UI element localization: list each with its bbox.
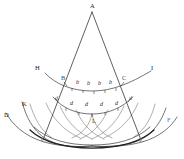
d-arc-ticks — [66, 108, 118, 117]
label-C-vertex: C — [41, 137, 46, 144]
mark-b-3: b — [98, 80, 101, 86]
mark-d-4: d — [115, 100, 118, 106]
label-H: H — [35, 65, 40, 72]
figure-root: A H B C I K D L C E F b b b b d d d d d … — [0, 0, 184, 159]
mark-d-1: d — [70, 100, 73, 106]
diagram-canvas — [0, 0, 184, 159]
label-I: I — [151, 65, 153, 72]
label-B: B — [61, 75, 66, 82]
faint-arc-4 — [104, 103, 138, 138]
label-D: D — [4, 112, 9, 119]
label-L: L — [92, 118, 96, 125]
label-F: F — [167, 117, 171, 124]
mark-b-1: b — [76, 79, 79, 85]
mark-d-3: d — [100, 101, 103, 107]
mark-d-edge-left: d — [55, 95, 58, 101]
mark-b-2: b — [87, 80, 90, 86]
middle-arc-d — [53, 97, 133, 114]
mark-b-4: b — [109, 79, 112, 85]
mark-d-edge-right: d — [129, 95, 132, 101]
label-E-vertex: E — [139, 137, 143, 144]
faint-arc-2 — [60, 106, 92, 139]
triangle-left-side — [43, 12, 92, 140]
faint-arc-1 — [46, 103, 80, 138]
triangle-right-side — [92, 12, 141, 140]
faint-arc-7 — [72, 114, 92, 138]
mark-d-2: d — [85, 101, 88, 107]
label-K: K — [22, 101, 27, 108]
label-C-upper: C — [122, 75, 127, 82]
curve-F-inner — [92, 108, 166, 146]
label-apex-A: A — [90, 3, 95, 10]
faint-arc-5 — [92, 106, 124, 139]
